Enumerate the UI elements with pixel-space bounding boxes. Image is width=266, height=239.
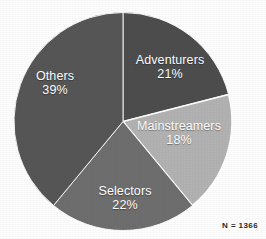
pie-slice-group — [14, 13, 232, 231]
sample-size-note: N = 1366 — [222, 221, 258, 230]
pie-chart-canvas — [0, 0, 266, 239]
pie-chart: Adventurers 21% Mainstreamers 18% Select… — [0, 0, 266, 239]
